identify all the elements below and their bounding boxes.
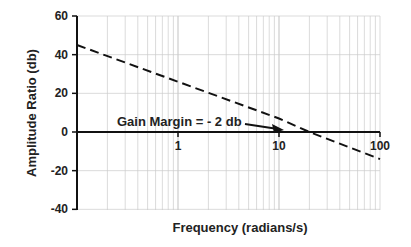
x-axis-label: Frequency (radians/s) (172, 220, 307, 235)
svg-text:20: 20 (55, 86, 69, 100)
svg-text:0: 0 (61, 125, 68, 139)
svg-text:-40: -40 (51, 202, 69, 216)
gain-margin-label: Gain Margin = - 2 db (117, 114, 242, 129)
grid (77, 16, 380, 210)
y-axis-label: Amplitude Ratio (db) (24, 49, 39, 177)
svg-text:40: 40 (55, 48, 69, 62)
svg-text:60: 60 (55, 9, 69, 23)
bode-plot: 6040200-20-40 110100 Gain Margin = - 2 d… (0, 0, 411, 247)
svg-text:-20: -20 (51, 164, 69, 178)
y-ticks: 6040200-20-40 (51, 9, 77, 216)
amplitude-line (77, 45, 380, 159)
svg-text:100: 100 (370, 139, 390, 153)
svg-text:1: 1 (175, 139, 182, 153)
svg-text:10: 10 (272, 139, 286, 153)
